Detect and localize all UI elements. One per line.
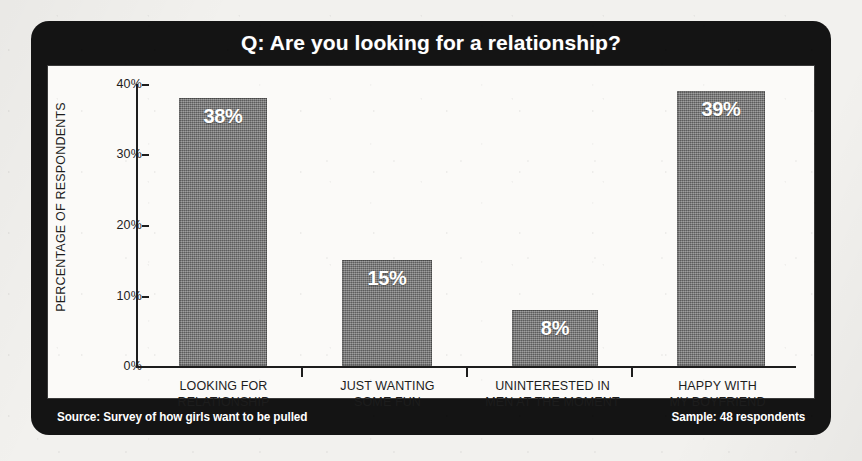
bar-looking-for-relationship[interactable]: 38% bbox=[179, 98, 267, 366]
page-title: Q: Are you looking for a relationship? bbox=[241, 31, 621, 55]
y-axis-tick-10: 10% bbox=[68, 289, 142, 305]
footer-source-text: Source: Survey of how girls want to be p… bbox=[57, 410, 307, 424]
x-axis-tick-1 bbox=[301, 368, 303, 377]
x-axis-tick-3 bbox=[631, 368, 633, 377]
y-axis-tick-30: 30% bbox=[68, 147, 142, 163]
infographic-card: Q: Are you looking for a relationship? P… bbox=[31, 21, 831, 435]
chart-title-band: Q: Are you looking for a relationship? bbox=[31, 21, 831, 65]
bar-uninterested-in-men[interactable]: 8% bbox=[512, 310, 598, 366]
bar-just-wanting-some-fun[interactable]: 15% bbox=[342, 260, 432, 366]
plot-area: PERCENTAGE OF RESPONDENTS 40% 30% 20% 10… bbox=[48, 66, 814, 398]
x-axis-category-4-line-1: HAPPY WITH bbox=[635, 378, 800, 394]
x-axis-category-1-line-1: LOOKING FOR bbox=[141, 378, 306, 394]
y-axis-tick-20: 20% bbox=[68, 218, 142, 234]
y-axis-tick-40: 40% bbox=[68, 77, 142, 93]
bar-value-label-3: 8% bbox=[512, 317, 598, 340]
chart-panel: PERCENTAGE OF RESPONDENTS 40% 30% 20% 10… bbox=[47, 65, 815, 399]
x-axis-tick-2 bbox=[466, 368, 468, 377]
bar-value-label-2: 15% bbox=[342, 267, 432, 290]
bar-value-label-4: 39% bbox=[677, 98, 765, 121]
x-axis-category-3-line-1: UNINTERESTED IN bbox=[470, 378, 635, 394]
x-axis-category-2-line-1: JUST WANTING bbox=[305, 378, 470, 394]
y-axis-tick-0: 0% bbox=[68, 359, 142, 375]
bar-value-label-1: 38% bbox=[179, 105, 267, 128]
bar-happy-with-my-boyfriend[interactable]: 39% bbox=[677, 91, 765, 366]
footer-sample-text: Sample: 48 respondents bbox=[671, 410, 805, 424]
chart-footer-band: Source: Survey of how girls want to be p… bbox=[31, 399, 831, 435]
page-background: Q: Are you looking for a relationship? P… bbox=[0, 0, 862, 461]
